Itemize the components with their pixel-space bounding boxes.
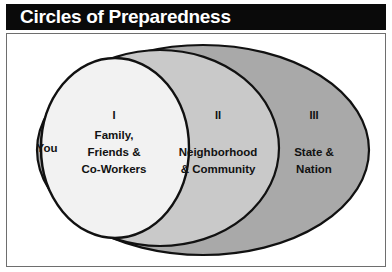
label-ring-2-roman: II xyxy=(215,109,221,121)
circles-of-preparedness-figure: Circles of Preparedness You I Family, Fr… xyxy=(0,0,392,272)
label-ring-1-line-3: Co-Workers xyxy=(82,163,147,175)
venn-diagram: You I Family, Friends & Co-Workers II Ne… xyxy=(7,34,385,266)
label-ring-1-line-2: Friends & xyxy=(87,146,140,158)
label-ring-1-roman: I xyxy=(112,109,115,121)
label-ring-3-line-1: State & xyxy=(294,146,334,158)
label-ring-3-line-2: Nation xyxy=(296,163,332,175)
label-ring-1-line-1: Family, xyxy=(95,129,134,141)
diagram-frame: You I Family, Friends & Co-Workers II Ne… xyxy=(6,33,386,267)
label-you-text: You xyxy=(37,142,58,154)
page-title: Circles of Preparedness xyxy=(20,7,231,26)
label-ring-3-roman: III xyxy=(309,109,318,121)
title-bar: Circles of Preparedness xyxy=(6,4,386,30)
label-ring-2-line-1: Neighborhood xyxy=(179,146,258,158)
label-ring-2-line-2: & Community xyxy=(181,163,256,175)
